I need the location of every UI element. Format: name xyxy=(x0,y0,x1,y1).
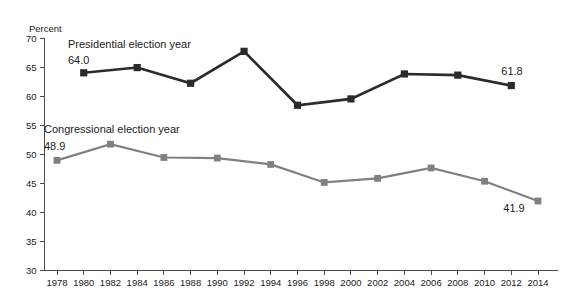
y-axis-ticks: 706560555045403530 xyxy=(26,33,45,276)
y-tick-label: 50 xyxy=(26,149,37,160)
series-line-presidential xyxy=(84,51,512,105)
x-tick-label: 1982 xyxy=(100,277,121,288)
y-tick-label: 70 xyxy=(26,33,37,44)
x-tick-label: 1984 xyxy=(127,277,148,288)
data-point-marker xyxy=(214,155,221,162)
data-point-marker xyxy=(134,64,141,71)
data-point-marker xyxy=(187,80,194,87)
data-point-marker xyxy=(54,157,61,164)
x-tick-label: 2014 xyxy=(527,277,548,288)
x-tick-label: 1986 xyxy=(153,277,174,288)
x-tick-label: 1994 xyxy=(260,277,281,288)
presidential-series-label: Presidential election year xyxy=(68,38,191,50)
y-tick-label: 30 xyxy=(26,265,37,276)
data-point-marker xyxy=(107,141,114,148)
presidential-end-value-label: 61.8 xyxy=(501,65,522,77)
y-tick-label: 60 xyxy=(26,91,37,102)
congressional-start-value-label: 48.9 xyxy=(44,140,65,152)
y-tick-label: 45 xyxy=(26,178,37,189)
x-tick-label: 1990 xyxy=(207,277,228,288)
x-tick-label: 1978 xyxy=(46,277,67,288)
x-tick-label: 2002 xyxy=(367,277,388,288)
data-point-marker xyxy=(481,178,488,185)
x-tick-label: 2006 xyxy=(421,277,442,288)
data-point-marker xyxy=(347,95,354,102)
x-tick-label: 1980 xyxy=(73,277,94,288)
line-chart-svg: Percent 706560555045403530 1978198019821… xyxy=(0,0,574,301)
y-tick-label: 55 xyxy=(26,120,37,131)
congressional-end-value-label: 41.9 xyxy=(503,202,524,214)
x-tick-label: 2012 xyxy=(501,277,522,288)
x-tick-label: 2004 xyxy=(394,277,415,288)
presidential-start-value-label: 64.0 xyxy=(68,54,89,66)
y-tick-label: 65 xyxy=(26,62,37,73)
y-tick-label: 35 xyxy=(26,236,37,247)
chart-container: Percent 706560555045403530 1978198019821… xyxy=(0,0,574,301)
data-point-marker xyxy=(160,154,167,161)
x-tick-label: 1992 xyxy=(233,277,254,288)
data-point-marker xyxy=(428,165,435,172)
data-point-marker xyxy=(240,48,247,55)
data-point-marker xyxy=(535,198,542,205)
y-tick-label: 40 xyxy=(26,207,37,218)
data-point-marker xyxy=(321,179,328,186)
x-tick-label: 2008 xyxy=(447,277,468,288)
x-axis-ticks: 1978198019821984198619881990199219941996… xyxy=(46,270,548,288)
data-point-marker xyxy=(508,82,515,89)
data-point-marker xyxy=(80,69,87,76)
data-point-marker xyxy=(374,175,381,182)
data-point-marker xyxy=(267,161,274,168)
x-tick-label: 1996 xyxy=(287,277,308,288)
congressional-series-label: Congressional election year xyxy=(44,123,180,135)
data-point-marker xyxy=(401,70,408,77)
x-tick-label: 2000 xyxy=(340,277,361,288)
data-point-marker xyxy=(294,102,301,109)
x-tick-label: 2010 xyxy=(474,277,495,288)
data-point-marker xyxy=(454,72,461,79)
series-line-congressional xyxy=(57,144,538,201)
x-tick-label: 1988 xyxy=(180,277,201,288)
x-tick-label: 1998 xyxy=(314,277,335,288)
